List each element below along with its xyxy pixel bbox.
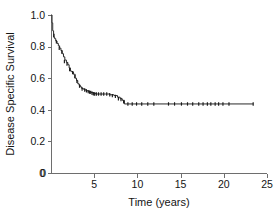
y-tick-label-3: 0.6	[30, 72, 45, 84]
y-tick-label-1: 0.2	[30, 135, 45, 147]
censoring-marks	[54, 34, 253, 106]
y-axis-title: Disease Specific Survival	[4, 32, 16, 156]
survival-step-line	[51, 15, 253, 104]
y-tick-label-4: 0.8	[30, 40, 45, 52]
x-axis: 0510152025	[40, 167, 273, 190]
y-axis: 00.20.40.60.81.0	[30, 9, 51, 179]
survival-chart-svg: 00.20.40.60.81.0 0510152025 Time (years)…	[0, 0, 278, 212]
x-tick-label-3: 15	[175, 178, 187, 190]
y-tick-label-5: 1.0	[30, 9, 45, 21]
x-tick-label-2: 10	[132, 178, 144, 190]
km-survival-curve	[51, 15, 253, 104]
x-tick-label-0: 0	[40, 167, 46, 179]
x-tick-label-5: 25	[261, 178, 273, 190]
y-tick-label-2: 0.4	[30, 104, 45, 116]
x-tick-label-1: 5	[91, 178, 97, 190]
survival-chart-figure: 00.20.40.60.81.0 0510152025 Time (years)…	[0, 0, 278, 212]
x-tick-label-4: 20	[218, 178, 230, 190]
x-axis-title: Time (years)	[128, 196, 189, 208]
